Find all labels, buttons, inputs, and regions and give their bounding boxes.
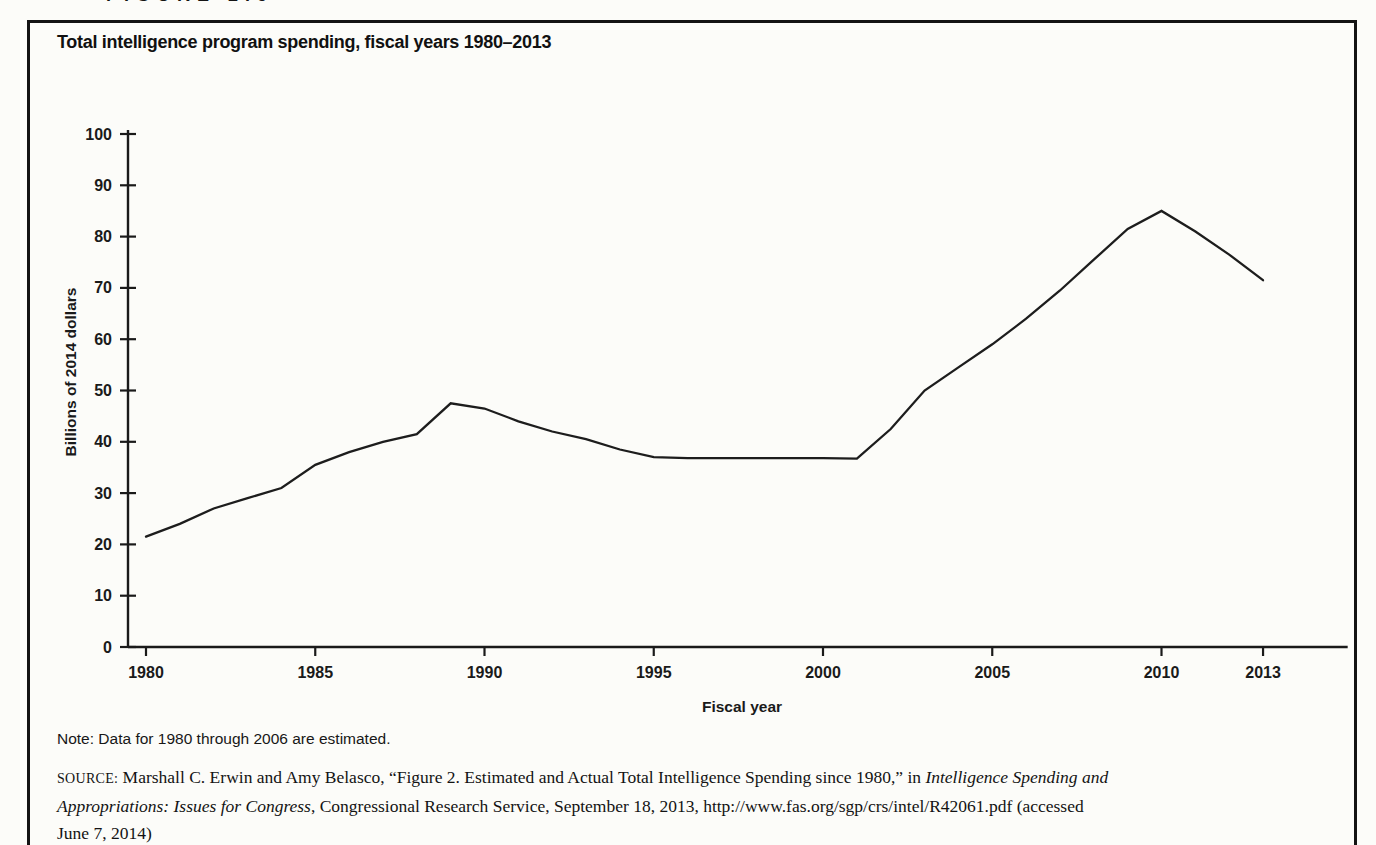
x-tick-label: 1990 — [467, 664, 503, 681]
source-italic-1: Intelligence Spending and — [925, 767, 1108, 787]
y-tick-label: 30 — [94, 485, 112, 502]
line-chart: 0102030405060708090100198019851990199520… — [0, 0, 1376, 845]
x-tick-label: 2010 — [1144, 664, 1180, 681]
y-tick-label: 70 — [94, 279, 112, 296]
source-italic-2: Appropriations: Issues for Congress — [57, 796, 311, 816]
y-tick-label: 50 — [94, 382, 112, 399]
y-tick-label: 10 — [94, 587, 112, 604]
figure-note: Note: Data for 1980 through 2006 are est… — [57, 730, 390, 748]
source-text-3: June 7, 2014) — [57, 823, 152, 843]
x-tick-label: 2013 — [1245, 664, 1281, 681]
y-tick-label: 90 — [94, 177, 112, 194]
spending-line — [146, 211, 1263, 537]
figure-source: SOURCE: Marshall C. Erwin and Amy Belasc… — [57, 764, 1349, 845]
y-tick-label: 0 — [103, 639, 112, 656]
y-tick-label: 80 — [94, 228, 112, 245]
source-label: SOURCE: — [57, 771, 118, 786]
y-tick-label: 40 — [94, 433, 112, 450]
y-tick-label: 60 — [94, 331, 112, 348]
y-axis-title: Billions of 2014 dollars — [62, 288, 79, 457]
x-tick-label: 1985 — [297, 664, 333, 681]
x-tick-label: 2000 — [805, 664, 841, 681]
y-tick-label: 20 — [94, 536, 112, 553]
x-tick-label: 2005 — [974, 664, 1010, 681]
y-tick-label: 100 — [85, 126, 112, 143]
source-text-2: , Congressional Research Service, Septem… — [311, 796, 1084, 816]
x-axis-title: Fiscal year — [702, 698, 782, 715]
x-tick-label: 1980 — [128, 664, 164, 681]
x-tick-label: 1995 — [636, 664, 672, 681]
source-text-1: Marshall C. Erwin and Amy Belasco, “Figu… — [118, 767, 925, 787]
